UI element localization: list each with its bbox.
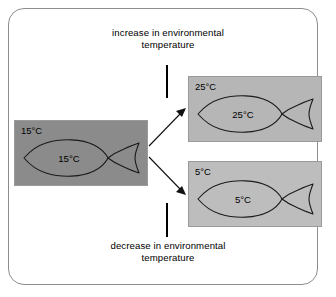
fish-container: 25°C: [194, 89, 318, 139]
diagram-canvas: increase in environmental temperature 15…: [0, 0, 336, 297]
box-cooler-environment: 5°C 5°C: [188, 161, 322, 227]
box-warmer-environment: 25°C 25°C: [188, 76, 322, 142]
fish-container: 15°C: [20, 133, 144, 183]
caption-decrease-temperature: decrease in environmental temperature: [108, 240, 228, 263]
caption-increase-temperature: increase in environmental temperature: [108, 27, 228, 50]
fish-icon: [20, 133, 144, 183]
connector-line-bottom: [166, 203, 168, 237]
box-starting-condition: 15°C 15°C: [14, 120, 148, 186]
fish-container: 5°C: [194, 174, 318, 224]
connector-line-top: [166, 65, 168, 98]
fish-icon: [194, 89, 318, 139]
fish-icon: [194, 174, 318, 224]
